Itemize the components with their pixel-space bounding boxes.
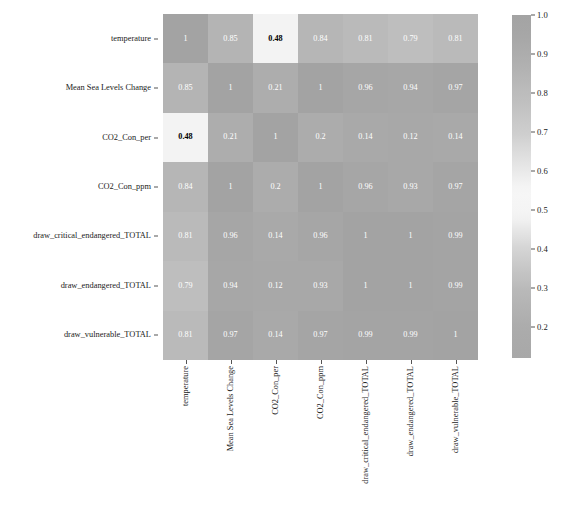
y-axis-tick-label: Mean Sea Levels Change — [0, 84, 151, 92]
heatmap-cell: 0.99 — [388, 311, 433, 360]
heatmap-cell: 0.12 — [388, 113, 433, 162]
colorbar-tick-label: 0.3 — [537, 284, 548, 293]
heatmap-cell-value: 0.97 — [448, 84, 462, 92]
heatmap-cell: 0.2 — [253, 162, 298, 211]
heatmap-cell-value: 0.2 — [270, 183, 280, 191]
heatmap-cell-value: 0.97 — [313, 331, 327, 339]
heatmap-cell-value: 0.14 — [268, 232, 282, 240]
colorbar-tick-label: 0.4 — [537, 245, 548, 254]
heatmap-cell: 0.99 — [433, 212, 478, 261]
y-axis-tick-mark — [154, 187, 158, 188]
heatmap-cell-value: 0.94 — [403, 84, 417, 92]
heatmap-cell: 0.79 — [163, 261, 208, 310]
heatmap-cell-value: 1 — [453, 331, 457, 339]
heatmap-cell-value: 0.99 — [448, 282, 462, 290]
heatmap-cell: 1 — [163, 14, 208, 63]
y-axis-tick-mark — [154, 285, 158, 286]
x-axis-tick-mark — [276, 360, 277, 364]
heatmap-cell-value: 1 — [318, 84, 322, 92]
heatmap-cell-value: 0.79 — [403, 35, 417, 43]
heatmap-cell: 0.97 — [433, 63, 478, 112]
x-axis-tick-label: CO2_Con_per — [271, 366, 279, 415]
x-axis-tick-label: Mean Sea Levels Change — [226, 366, 234, 451]
x-axis-tick-label: draw_vulnerable_TOTAL — [451, 366, 459, 453]
x-axis-labels: temperatureMean Sea Levels ChangeCO2_Con… — [163, 360, 478, 510]
heatmap-cell: 0.96 — [208, 212, 253, 261]
x-axis-tick-group: draw_vulnerable_TOTAL — [433, 360, 478, 510]
correlation-heatmap-figure: temperatureMean Sea Levels ChangeCO2_Con… — [0, 0, 562, 529]
heatmap-cell: 0.99 — [433, 261, 478, 310]
colorbar-tick-mark — [531, 131, 535, 132]
heatmap-cell-value: 1 — [183, 35, 187, 43]
heatmap-cell-value: 0.81 — [178, 232, 192, 240]
colorbar-tick-label: 0.2 — [537, 323, 548, 332]
heatmap-cell-value: 0.84 — [313, 35, 327, 43]
x-axis-tick-group: temperature — [163, 360, 208, 510]
x-axis-tick-group: draw_endangered_TOTAL — [388, 360, 433, 510]
heatmap-cell: 0.84 — [298, 14, 343, 63]
heatmap-cell: 1 — [433, 311, 478, 360]
heatmap-cell-value: 0.97 — [448, 183, 462, 191]
heatmap-cell-value: 1 — [318, 183, 322, 191]
heatmap-cell-value: 0.81 — [448, 35, 462, 43]
x-axis-tick-label: draw_critical_endangered_TOTAL — [361, 366, 369, 484]
heatmap-cell: 0.21 — [208, 113, 253, 162]
heatmap-cell-value: 0.12 — [268, 282, 282, 290]
colorbar-tick-mark — [531, 170, 535, 171]
x-axis-tick-label: CO2_Con_ppm — [316, 366, 324, 419]
heatmap-cell: 1 — [388, 212, 433, 261]
heatmap-cell: 0.14 — [343, 113, 388, 162]
heatmap-cell: 0.81 — [433, 14, 478, 63]
heatmap-cell: 0.12 — [253, 261, 298, 310]
heatmap-cell: 0.96 — [298, 212, 343, 261]
heatmap-cell: 1 — [208, 162, 253, 211]
heatmap-cell: 0.93 — [298, 261, 343, 310]
heatmap-cell: 0.94 — [388, 63, 433, 112]
heatmap-cell-value: 0.85 — [223, 35, 237, 43]
heatmap-cell: 0.84 — [163, 162, 208, 211]
heatmap-cell: 1 — [298, 63, 343, 112]
heatmap-cell: 1 — [388, 261, 433, 310]
x-axis-tick-mark — [186, 360, 187, 364]
heatmap-cell-value: 0.96 — [358, 84, 372, 92]
heatmap-cell: 0.79 — [388, 14, 433, 63]
heatmap-cell-value: 0.14 — [448, 133, 462, 141]
heatmap-cell-value: 0.99 — [448, 232, 462, 240]
y-axis-tick-label: CO2_Con_ppm — [0, 183, 151, 191]
heatmap-cell: 0.85 — [163, 63, 208, 112]
heatmap-cell-value: 1 — [363, 232, 367, 240]
colorbar-tick-mark — [531, 53, 535, 54]
heatmap-cell-value: 0.96 — [358, 183, 372, 191]
heatmap-cell-value: 0.85 — [178, 84, 192, 92]
x-axis-tick-mark — [456, 360, 457, 364]
colorbar-tick-mark — [531, 92, 535, 93]
heatmap-cell-value: 0.84 — [178, 183, 192, 191]
heatmap-cell: 0.14 — [253, 311, 298, 360]
heatmap-cell-value: 0.14 — [358, 133, 372, 141]
y-axis-tick-mark — [154, 335, 158, 336]
heatmap-cell-value: 0.81 — [178, 331, 192, 339]
heatmap-cell-value: 0.96 — [223, 232, 237, 240]
colorbar-tick-label: 1.0 — [537, 11, 548, 20]
heatmap-cell-value: 0.96 — [313, 232, 327, 240]
colorbar-tick-mark — [531, 248, 535, 249]
heatmap-cell-value: 0.79 — [178, 282, 192, 290]
colorbar-tick-mark — [531, 15, 535, 16]
heatmap-cell-value: 1 — [363, 282, 367, 290]
heatmap-cell: 0.96 — [343, 63, 388, 112]
heatmap-cell-value: 0.21 — [223, 133, 237, 141]
heatmap-cell-value: 1 — [228, 183, 232, 191]
heatmap-cell-value: 0.99 — [358, 331, 372, 339]
heatmap-cell-value: 0.2 — [315, 133, 325, 141]
heatmap-cell-value: 1 — [408, 282, 412, 290]
colorbar-tick-label: 0.8 — [537, 89, 548, 98]
y-axis-tick-label: temperature — [0, 35, 151, 43]
heatmap-cell: 0.81 — [343, 14, 388, 63]
x-axis-tick-group: Mean Sea Levels Change — [208, 360, 253, 510]
heatmap-cell-value: 0.81 — [358, 35, 372, 43]
y-axis-tick-label: draw_vulnerable_TOTAL — [0, 331, 151, 339]
y-axis-tick-mark — [154, 88, 158, 89]
heatmap-cell: 0.14 — [433, 113, 478, 162]
x-axis-tick-group: CO2_Con_ppm — [298, 360, 343, 510]
heatmap-cell: 0.85 — [208, 14, 253, 63]
